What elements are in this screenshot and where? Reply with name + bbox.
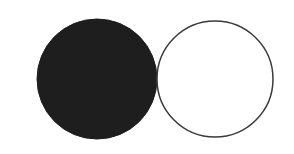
filled-circle (37, 19, 157, 139)
diagram-canvas (0, 0, 294, 154)
outline-circle (157, 21, 273, 137)
